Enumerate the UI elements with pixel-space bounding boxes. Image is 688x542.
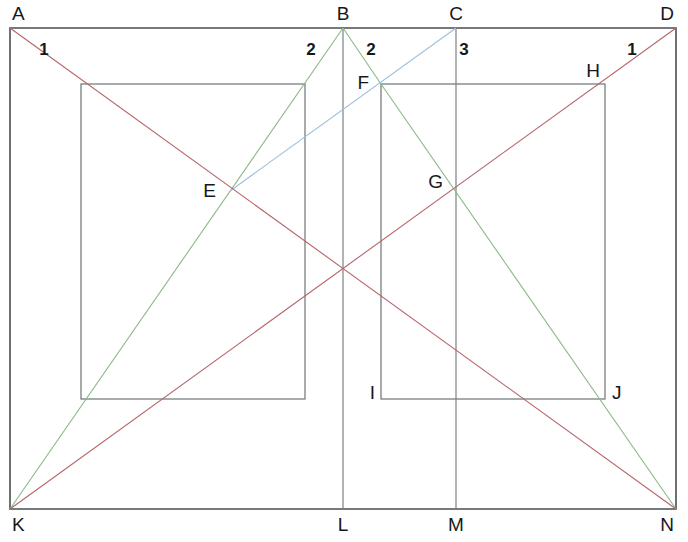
angle-3: 3 (459, 40, 468, 59)
vertex-label-B: B (337, 3, 350, 24)
vertex-label-E: E (203, 180, 216, 201)
angle-2-left: 2 (306, 40, 315, 59)
vertex-label-L: L (338, 514, 349, 535)
vertex-label-M: M (448, 514, 464, 535)
vertex-label-G: G (428, 171, 443, 192)
geometry-canvas: ABCDEFGHIJKLMN 12231 (0, 0, 688, 542)
angle-labels-group: 12231 (39, 40, 636, 59)
angle-2-right: 2 (366, 40, 375, 59)
vertex-label-C: C (449, 3, 463, 24)
vertex-label-H: H (586, 60, 600, 81)
vertical-lines-group (343, 28, 456, 509)
angle-1-right: 1 (627, 40, 636, 59)
vertex-label-F: F (357, 72, 369, 93)
green-line-KB (10, 28, 343, 509)
vertex-label-D: D (660, 3, 674, 24)
vertex-label-A: A (12, 3, 25, 24)
geometry-diagram: ABCDEFGHIJKLMN 12231 (0, 0, 688, 542)
right-inner-rectangle (381, 84, 605, 399)
angle-1-left: 1 (39, 40, 48, 59)
green-line-FN (381, 84, 676, 509)
vertex-label-N: N (660, 514, 674, 535)
vertex-label-I: I (370, 382, 375, 403)
vertex-label-J: J (612, 382, 622, 403)
vertex-label-K: K (12, 514, 25, 535)
